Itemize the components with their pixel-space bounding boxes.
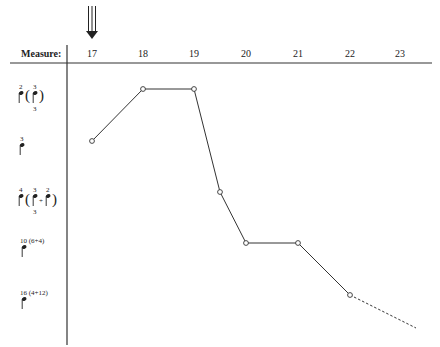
tick-18: 18	[138, 48, 148, 59]
data-point-m21	[296, 241, 301, 246]
row-label-4: 10 (6+4)	[20, 237, 45, 257]
tick-21: 21	[293, 48, 303, 59]
row3-paren-number-2: 2	[46, 186, 50, 194]
row-label-3: 4 ( 3 3 + 2 )	[18, 186, 57, 216]
note-icon	[21, 244, 27, 257]
note-icon	[18, 193, 24, 206]
row1-tuplet-number: 3	[33, 105, 37, 113]
row1-main-number: 2	[19, 83, 23, 91]
note-icon	[45, 193, 51, 206]
row3-tuplet-number: 3	[33, 208, 37, 216]
close-paren: )	[39, 87, 44, 104]
row3-paren-number-1: 3	[33, 186, 37, 194]
row3-plus-sign: +	[39, 197, 43, 205]
row5-label-text: 16 (4+12)	[20, 289, 49, 297]
data-line-dashed	[350, 295, 416, 328]
double-arrow-down-icon	[86, 6, 98, 39]
tick-19: 19	[189, 48, 199, 59]
data-point-m18	[141, 87, 146, 92]
tick-20: 20	[241, 48, 251, 59]
note-icon	[32, 193, 38, 206]
data-point-m19	[192, 87, 197, 92]
open-paren: (	[25, 191, 30, 208]
data-point-m19-5	[218, 190, 223, 195]
data-points	[90, 87, 353, 298]
row-label-5: 16 (4+12)	[20, 289, 49, 309]
row4-label-text: 10 (6+4)	[20, 237, 45, 245]
open-paren: (	[25, 87, 30, 104]
measure-chart: Measure: 17 18 19 20 21 22 23 2 ( 3 3 ) …	[0, 0, 440, 347]
row3-main-number: 4	[19, 186, 23, 194]
row-label-1: 2 ( 3 3 )	[18, 83, 44, 113]
note-icon	[21, 296, 27, 309]
note-icon	[32, 90, 38, 103]
note-icon	[18, 90, 24, 103]
x-axis-label: Measure:	[21, 48, 61, 59]
data-point-m22	[348, 293, 353, 298]
note-icon	[19, 142, 25, 155]
data-point-m17	[90, 139, 95, 144]
data-point-m20	[244, 241, 249, 246]
row2-main-number: 3	[20, 135, 24, 143]
tick-23: 23	[395, 48, 405, 59]
tick-22: 22	[345, 48, 355, 59]
close-paren: )	[52, 191, 57, 208]
tick-17: 17	[87, 48, 97, 59]
row-label-2: 3	[19, 135, 25, 155]
row1-paren-number: 3	[33, 83, 37, 91]
